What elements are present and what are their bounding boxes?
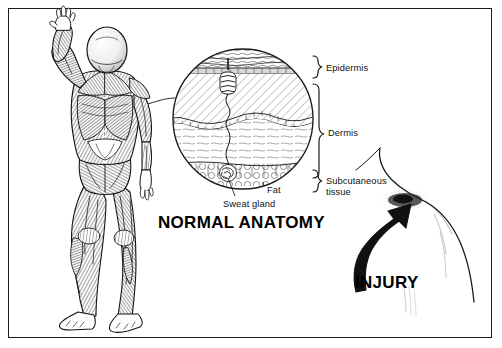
caption-injury: INJURY	[355, 273, 419, 293]
label-epidermis: Epidermis	[326, 63, 368, 74]
label-sweat-gland: Sweat gland	[223, 199, 275, 210]
label-subcutaneous-tissue: Subcutaneous tissue	[326, 176, 387, 197]
label-fat: Fat	[267, 185, 281, 196]
caption-normal-anatomy: NORMAL ANATOMY	[158, 213, 325, 233]
label-dermis: Dermis	[328, 128, 358, 139]
illustration-frame: Epidermis Dermis Subcutaneous tissue Fat…	[0, 0, 502, 348]
injury-shoulder-outline	[0, 0, 502, 348]
